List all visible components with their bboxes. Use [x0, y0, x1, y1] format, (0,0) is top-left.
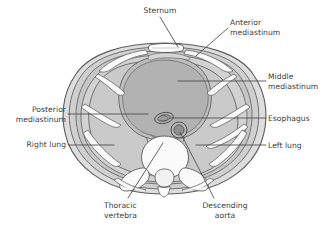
label-left-lung: Left lung [268, 141, 326, 151]
label-sternum: Sternum [128, 6, 192, 16]
label-posterior-mediastinum: Posterior mediastinum [0, 105, 66, 124]
label-anterior-mediastinum: Anterior mediastinum [230, 18, 300, 37]
label-esophagus: Esophagus [268, 114, 326, 124]
descending-aorta-body [171, 122, 187, 138]
label-descending-aorta: Descending aorta [190, 201, 260, 220]
spinal-canal [155, 169, 174, 187]
label-right-lung: Right lung [0, 140, 66, 150]
label-middle-mediastinum: Middle mediastinum [268, 72, 329, 91]
label-thoracic-vertebra: Thoracic vertebra [104, 201, 164, 220]
sternum-body [149, 44, 184, 53]
thorax-cross-section-figure: SternumAnterior mediastinumMiddle medias… [0, 0, 329, 236]
